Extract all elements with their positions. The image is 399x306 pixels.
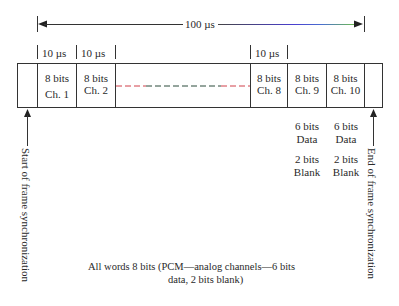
channel-10-name: Ch. 10 xyxy=(327,83,364,97)
channel-9-name: Ch. 9 xyxy=(288,83,326,97)
ch10-blank-bits: 2 bits xyxy=(326,153,366,166)
note-line-2: data, 2 bits blank) xyxy=(168,273,243,286)
slot-tick xyxy=(115,45,116,59)
ch9-blank-label: Blank xyxy=(287,166,327,179)
channel-2-name: Ch. 2 xyxy=(77,83,115,97)
note-line-1: All words 8 bits (PCM—analog channels—6 … xyxy=(88,260,295,273)
start-sync-arrow-icon xyxy=(23,109,32,146)
ch10-data-bits: 6 bits xyxy=(326,120,366,133)
gap-cell xyxy=(115,63,250,108)
slot-duration-label-8: 10 µs xyxy=(255,47,279,59)
slot-tick xyxy=(76,45,77,59)
frame-duration-label: 100 µs xyxy=(185,18,215,30)
slot-duration-label-2: 10 µs xyxy=(81,47,105,59)
ch10-blank-label: Blank xyxy=(326,166,366,179)
ch9-data-bits: 6 bits xyxy=(287,120,327,133)
slot-tick xyxy=(250,45,251,59)
channel-1-bits: 8 bits xyxy=(38,71,76,85)
channel-cell-2: 8 bits Ch. 2 xyxy=(76,63,115,108)
slot-tick xyxy=(287,45,288,59)
arrow-line-right xyxy=(218,24,356,25)
ch9-data-label: Data xyxy=(287,133,327,146)
ch10-data-label: Data xyxy=(326,133,366,146)
channel-1-name: Ch. 1 xyxy=(38,87,76,101)
channel-cell-10: 8 bits Ch. 10 xyxy=(326,63,364,108)
arrow-right-tick xyxy=(364,16,365,32)
end-sync-arrow-icon xyxy=(369,109,378,146)
end-sync-label: End of frame synchronization xyxy=(366,148,378,279)
arrow-right-head-icon xyxy=(354,20,364,28)
slot-duration-label-1: 10 µs xyxy=(42,47,66,59)
ch9-blank-bits: 2 bits xyxy=(287,153,327,166)
channel-8-name: Ch. 8 xyxy=(251,83,287,97)
channel-cell-8: 8 bits Ch. 8 xyxy=(250,63,287,108)
end-sync-cell xyxy=(364,63,383,108)
start-sync-label: Start of frame synchronization xyxy=(20,148,32,282)
channel-cell-9: 8 bits Ch. 9 xyxy=(287,63,326,108)
arrow-line-left xyxy=(44,24,183,25)
dashed-continuation-line xyxy=(116,85,251,88)
channel-cell-1: 8 bits Ch. 1 xyxy=(37,63,76,108)
slot-tick xyxy=(37,45,38,59)
